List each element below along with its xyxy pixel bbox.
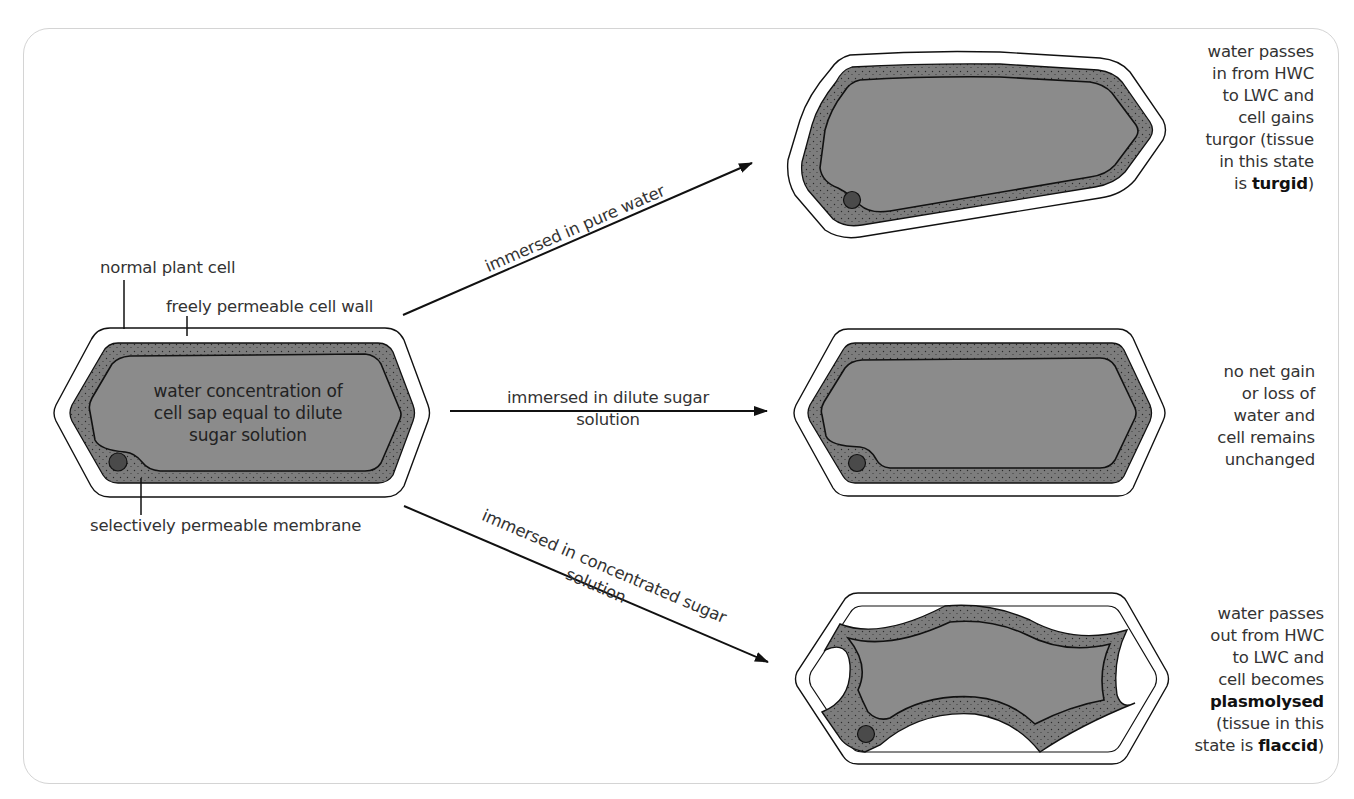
turgid-cell [788, 51, 1166, 237]
plasmolysed-cell [796, 593, 1169, 764]
nucleus [109, 453, 127, 471]
term-turgid: turgid [1252, 174, 1308, 193]
desc-turgid: water passes in from HWC to LWC and cell… [1174, 41, 1314, 195]
cell-sap-text: water concentration of cell sap equal to… [128, 380, 368, 446]
arrow-pure-water [403, 163, 752, 315]
nucleus [858, 726, 875, 743]
unchanged-cell [794, 329, 1165, 496]
label-membrane: selectively permeable membrane [90, 516, 361, 536]
term-flaccid: flaccid [1258, 736, 1318, 755]
desc-text: no net gain or loss of water and cell re… [1217, 362, 1315, 469]
label-normal-plant-cell: normal plant cell [100, 258, 235, 278]
term-plasmolysed: plasmolysed [1210, 692, 1324, 711]
desc-unchanged: no net gain or loss of water and cell re… [1175, 361, 1315, 471]
desc-text: water passes out from HWC to LWC and cel… [1210, 604, 1324, 689]
nucleus [849, 455, 866, 472]
desc-plasmolysed: water passes out from HWC to LWC and cel… [1164, 603, 1324, 757]
desc-text: ) [1308, 174, 1314, 193]
arrow-label-dilute: immersed in dilute sugar solution [478, 387, 738, 431]
label-cell-wall: freely permeable cell wall [166, 297, 373, 317]
nucleus [844, 192, 861, 209]
desc-text: ) [1318, 736, 1324, 755]
desc-text: water passes in from HWC to LWC and cell… [1205, 42, 1314, 193]
